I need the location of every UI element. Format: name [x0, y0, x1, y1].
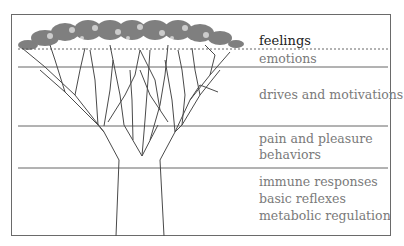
- layer-label-pain-pleasure: pain and pleasure: [259, 131, 373, 147]
- layer-label-feelings: feelings: [259, 33, 311, 49]
- tree-trunk-branches: [22, 45, 230, 236]
- layer-label-immune: immune responses: [259, 174, 378, 190]
- layer-label-drives: drives and motivations: [259, 87, 403, 103]
- layer-label-behaviors: behaviors: [259, 147, 321, 163]
- layer-label-reflexes: basic reflexes: [259, 191, 346, 207]
- layer-label-metabolic: metabolic regulation: [259, 208, 391, 224]
- layer-label-emotions: emotions: [259, 51, 317, 67]
